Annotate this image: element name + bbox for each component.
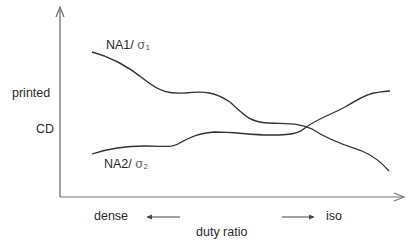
- x-label-iso: iso: [326, 210, 342, 223]
- curve-na2-name: NA2: [104, 157, 128, 171]
- curve-na1-name: NA1: [106, 38, 130, 52]
- iso-arrowhead: [309, 215, 314, 219]
- y-axis-label-cd: CD: [36, 123, 54, 136]
- diagram-canvas: [0, 0, 412, 251]
- curve-label-na1: NA1/ σ1: [106, 39, 150, 52]
- x-label-dense: dense: [94, 210, 128, 223]
- curve-na1: [92, 52, 389, 171]
- curve-na1-separator: /: [130, 38, 133, 52]
- dense-arrowhead: [147, 215, 152, 219]
- y-axis-label-printed: printed: [12, 87, 50, 100]
- sigma-2-index: 2: [144, 162, 148, 171]
- x-axis-label: duty ratio: [196, 226, 247, 239]
- sigma-1-symbol: σ: [137, 38, 145, 52]
- curve-na2-separator: /: [128, 157, 131, 171]
- curve-label-na2: NA2/ σ2: [104, 158, 148, 171]
- sigma-1-index: 1: [146, 43, 150, 52]
- sigma-2-symbol: σ: [135, 157, 143, 171]
